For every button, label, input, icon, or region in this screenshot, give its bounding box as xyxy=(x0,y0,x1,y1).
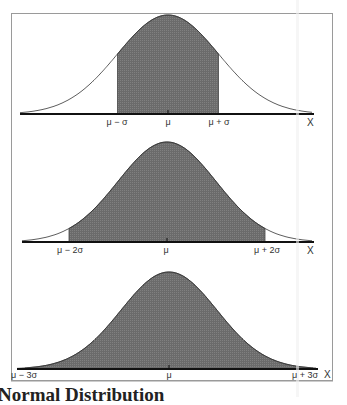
panel-1-label-left: μ − σ xyxy=(107,117,128,127)
panel-2-axis-label: X xyxy=(307,245,314,256)
panel-3-label-right: μ + 3σ xyxy=(292,370,318,380)
panel-one-sigma xyxy=(20,15,314,114)
shaded-area xyxy=(25,272,313,369)
panel-3-axis-label: X xyxy=(324,369,331,380)
panel-1-label-right: μ + σ xyxy=(209,117,230,127)
panel-2-label-center: μ xyxy=(163,245,168,255)
panel-3-label-center: μ xyxy=(166,370,171,380)
panel-three-sigma xyxy=(17,272,318,369)
shaded-area xyxy=(118,15,219,114)
panel-1-axis-label: X xyxy=(307,117,314,128)
panel-3-label-left: μ − 3σ xyxy=(11,370,37,380)
panel-two-sigma xyxy=(22,142,314,242)
panel-2-label-left: μ − 2σ xyxy=(57,245,83,255)
figure-caption: Normal Distribution xyxy=(0,384,164,405)
shaded-area xyxy=(69,142,265,242)
panel-2-label-right: μ + 2σ xyxy=(254,245,280,255)
scan-artifact xyxy=(296,0,299,397)
panel-1-label-center: μ xyxy=(165,117,170,127)
